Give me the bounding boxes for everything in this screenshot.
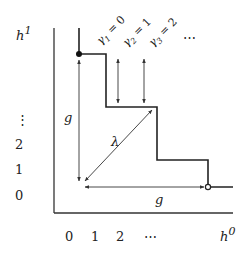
x-axis-label: h0: [220, 225, 235, 244]
y-tick-0: 0: [15, 188, 23, 203]
filled-point: [76, 51, 82, 57]
y-tick-2: 2: [15, 137, 23, 152]
x-tick-2: 2: [116, 229, 124, 244]
gamma3-label: γ3 = 2: [146, 15, 181, 50]
x-tick-0: 0: [65, 229, 73, 244]
g-vertical-label: g: [64, 110, 72, 125]
hollow-point: [205, 184, 210, 189]
y-tick-1: 1: [15, 162, 23, 177]
y-tick-vdots: ⋮: [16, 112, 29, 127]
staircase-diagram: g g λ h1 ⋮ 2 1 0 0 1 2 ⋯ h0 γ1 = 0 γ2 = …: [0, 0, 247, 253]
x-tick-1: 1: [91, 229, 99, 244]
g-horizontal-label: g: [155, 192, 163, 207]
x-tick-dots: ⋯: [144, 229, 157, 244]
y-axis-label: h1: [16, 24, 31, 43]
gamma-ellipsis: ⋯: [183, 30, 196, 45]
lambda-label: λ: [110, 134, 119, 149]
